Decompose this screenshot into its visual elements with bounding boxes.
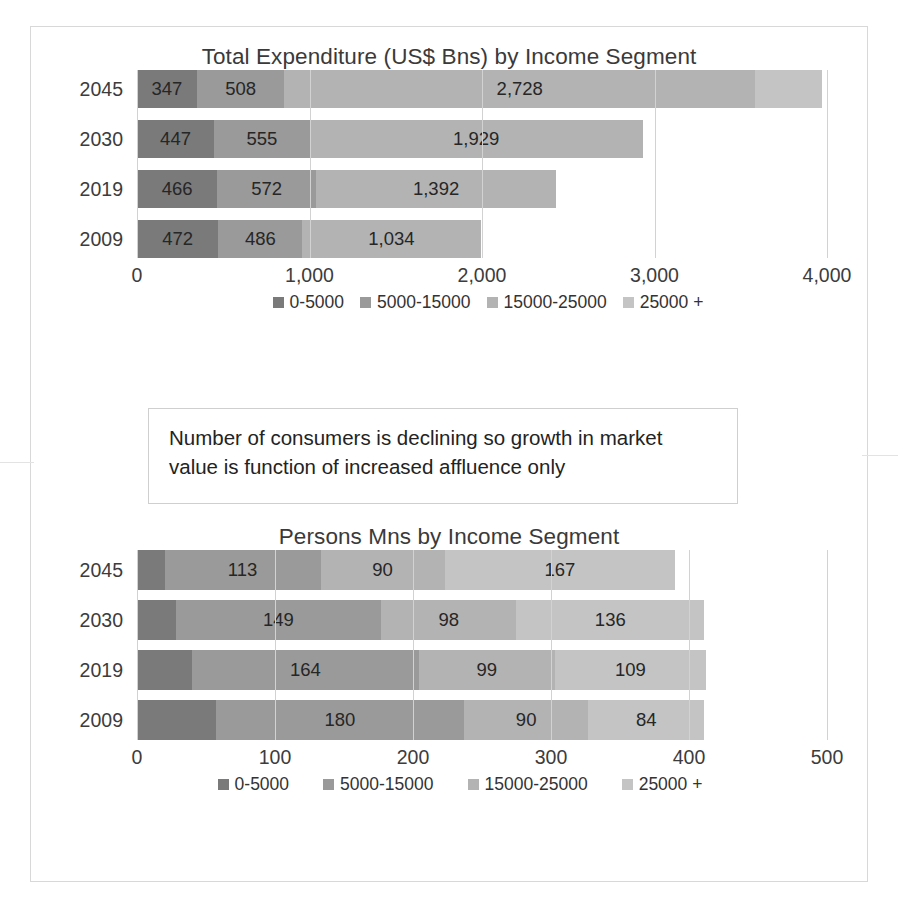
bar-segment[interactable]: 98 (381, 600, 516, 640)
bar-value-label: 2,728 (497, 80, 543, 99)
chart-expenditure-plot: 20453475082,72820304475551,9292019466572… (41, 70, 867, 258)
legend-swatch-icon (360, 297, 371, 308)
bar-row: 20094724861,034 (41, 220, 867, 258)
bar-track: 3475082,728 (137, 70, 867, 108)
category-label: 2045 (41, 559, 137, 582)
legend-item[interactable]: 5000-15000 (323, 774, 433, 795)
chart-persons: Persons Mns by Income Segment 2045113901… (0, 524, 898, 795)
stacked-bar[interactable]: 16499109 (137, 650, 706, 690)
bar-value-label: 447 (160, 130, 191, 149)
category-label: 2030 (41, 609, 137, 632)
chart-persons-xaxis: 0100200300400500 (137, 740, 827, 774)
stacked-bar[interactable]: 11390167 (137, 550, 675, 590)
bar-segment[interactable]: 90 (321, 550, 445, 590)
bar-segment[interactable]: 1,034 (302, 220, 480, 258)
bar-segment[interactable]: 508 (197, 70, 285, 108)
bar-segment[interactable]: 167 (445, 550, 675, 590)
bar-track: 4665721,392 (137, 170, 867, 208)
bar-row: 20304475551,929 (41, 120, 867, 158)
legend-item[interactable]: 15000-25000 (487, 292, 607, 313)
bar-segment[interactable]: 486 (218, 220, 302, 258)
bar-segment[interactable] (137, 600, 176, 640)
bar-row: 20194665721,392 (41, 170, 867, 208)
bar-segment[interactable]: 180 (216, 700, 464, 740)
x-tick-label: 4,000 (803, 264, 852, 287)
bar-value-label: 180 (324, 711, 355, 730)
category-label: 2030 (41, 128, 137, 151)
bar-segment[interactable]: 447 (137, 120, 214, 158)
bar-segment[interactable]: 466 (137, 170, 217, 208)
callout-line-2: value is function of increased affluence… (169, 452, 719, 481)
chart-expenditure-title: Total Expenditure (US$ Bns) by Income Se… (0, 44, 898, 70)
category-label: 2045 (41, 78, 137, 101)
bar-segment[interactable]: 572 (217, 170, 316, 208)
stacked-bar[interactable]: 1809084 (137, 700, 704, 740)
legend-label: 25000 + (639, 774, 703, 795)
page-fold-left (0, 462, 34, 463)
legend-label: 5000-15000 (377, 292, 470, 313)
bar-segment[interactable]: 99 (419, 650, 556, 690)
x-tick-label: 200 (397, 746, 430, 769)
bar-segment[interactable]: 149 (176, 600, 382, 640)
bar-track: 11390167 (137, 550, 867, 590)
bar-segment[interactable] (137, 550, 165, 590)
bar-segment[interactable]: 2,728 (284, 70, 755, 108)
category-label: 2009 (41, 228, 137, 251)
legend-swatch-icon (487, 297, 498, 308)
legend-swatch-icon (218, 779, 229, 790)
stacked-bar[interactable]: 4665721,392 (137, 170, 556, 208)
bar-segment[interactable]: 164 (192, 650, 418, 690)
bar-value-label: 90 (372, 561, 393, 580)
bar-value-label: 466 (162, 180, 193, 199)
legend-swatch-icon (323, 779, 334, 790)
chart-expenditure-xaxis: 01,0002,0003,0004,000 (137, 258, 827, 292)
bar-segment[interactable]: 555 (214, 120, 310, 158)
bar-value-label: 555 (247, 130, 278, 149)
bar-segment[interactable]: 109 (555, 650, 705, 690)
bar-value-label: 1,929 (453, 130, 499, 149)
stacked-bar[interactable]: 14998136 (137, 600, 704, 640)
chart-persons-plot: 2045113901672030149981362019164991092009… (41, 550, 867, 740)
bar-rows: 20453475082,72820304475551,9292019466572… (41, 70, 867, 258)
bar-segment[interactable]: 90 (464, 700, 588, 740)
bar-segment[interactable] (755, 70, 822, 108)
bar-row: 20091809084 (41, 700, 867, 740)
legend-item[interactable]: 0-5000 (273, 292, 345, 313)
bar-segment[interactable] (137, 650, 192, 690)
legend-swatch-icon (468, 779, 479, 790)
bar-value-label: 109 (615, 661, 646, 680)
bar-segment[interactable]: 1,392 (316, 170, 556, 208)
legend-label: 15000-25000 (504, 292, 607, 313)
bar-segment[interactable]: 1,929 (310, 120, 643, 158)
legend-label: 0-5000 (235, 774, 290, 795)
stacked-bar[interactable]: 4475551,929 (137, 120, 643, 158)
legend-item[interactable]: 25000 + (623, 292, 704, 313)
stacked-bar[interactable]: 4724861,034 (137, 220, 481, 258)
legend-item[interactable]: 15000-25000 (468, 774, 588, 795)
legend-label: 0-5000 (290, 292, 345, 313)
bar-segment[interactable] (137, 700, 216, 740)
page-fold-right (862, 455, 898, 456)
bar-track: 16499109 (137, 650, 867, 690)
bar-segment[interactable]: 136 (516, 600, 704, 640)
bar-value-label: 164 (290, 661, 321, 680)
legend-item[interactable]: 0-5000 (218, 774, 290, 795)
bar-segment[interactable]: 472 (137, 220, 218, 258)
bar-segment[interactable]: 84 (588, 700, 704, 740)
stacked-bar[interactable]: 3475082,728 (137, 70, 822, 108)
category-label: 2019 (41, 178, 137, 201)
x-tick-label: 0 (132, 746, 143, 769)
x-tick-label: 500 (811, 746, 844, 769)
bar-segment[interactable]: 347 (137, 70, 197, 108)
legend-item[interactable]: 25000 + (622, 774, 703, 795)
chart-expenditure: Total Expenditure (US$ Bns) by Income Se… (0, 44, 898, 313)
bar-row: 20453475082,728 (41, 70, 867, 108)
bar-value-label: 572 (251, 180, 282, 199)
bar-track: 4475551,929 (137, 120, 867, 158)
x-tick-label: 300 (535, 746, 568, 769)
legend-item[interactable]: 5000-15000 (360, 292, 470, 313)
chart-persons-legend: 0-50005000-1500015000-2500025000 + (130, 774, 790, 795)
x-tick-label: 3,000 (630, 264, 679, 287)
legend-label: 5000-15000 (340, 774, 433, 795)
bar-segment[interactable]: 113 (165, 550, 321, 590)
